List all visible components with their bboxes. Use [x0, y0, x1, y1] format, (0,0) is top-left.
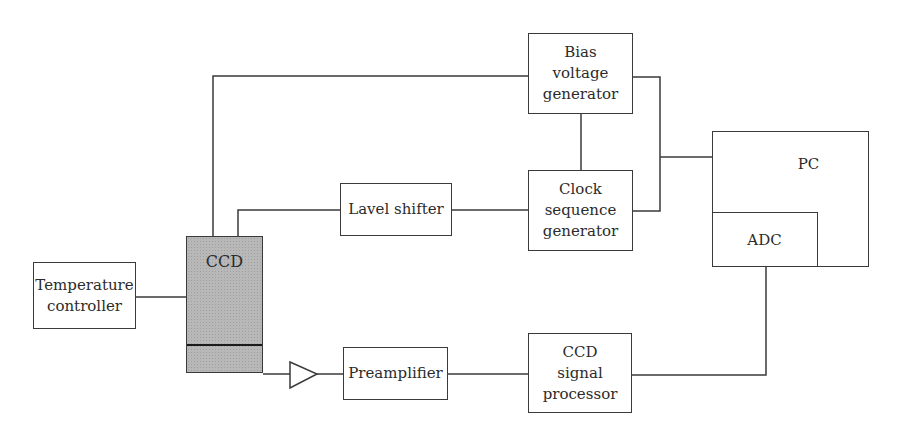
clock-sequence-generator-block: Clock sequence generator [528, 170, 633, 251]
adc-block: ADC [712, 212, 818, 267]
wire-bus [633, 77, 660, 211]
shifter-label: Lavel shifter [348, 199, 444, 220]
bias-voltage-generator-block: Bias voltage generator [528, 33, 633, 114]
diagram-canvas: Bias voltage generator Clock sequence ge… [0, 0, 899, 434]
adc-label: ADC [747, 230, 781, 251]
temp-label: Temperature controller [35, 275, 133, 317]
amplifier-triangle-icon [290, 362, 317, 388]
preamplifier-block: Preamplifier [343, 347, 448, 400]
clock-label: Clock sequence generator [543, 179, 618, 242]
processor-label: CCD signal processor [543, 342, 618, 405]
wire-processor-adc [632, 266, 766, 375]
bias-label: Bias voltage generator [543, 42, 618, 105]
ccd-signal-processor-block: CCD signal processor [528, 333, 632, 413]
temperature-controller-block: Temperature controller [33, 262, 136, 329]
ccd-label: CCD [206, 251, 243, 272]
wire-ccd-shifter [238, 210, 340, 236]
preamp-label: Preamplifier [348, 363, 443, 384]
ccd-divider [187, 344, 262, 346]
pc-label: PC [798, 154, 820, 175]
ccd-block: CCD [186, 236, 263, 373]
level-shifter-block: Lavel shifter [340, 183, 452, 236]
